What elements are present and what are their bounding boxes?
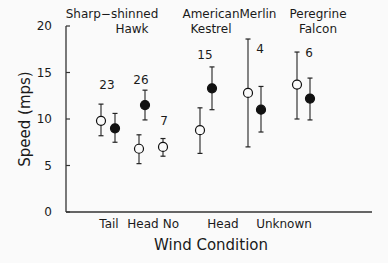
mean-marker <box>111 124 120 133</box>
mean-marker <box>293 80 302 89</box>
y-tick-label: 5 <box>44 159 52 173</box>
mean-marker <box>97 116 106 125</box>
sample-size-label: 23 <box>99 78 114 92</box>
y-tick-label: 10 <box>37 112 52 126</box>
mean-marker <box>196 126 205 135</box>
x-tick-label: Unknown <box>256 217 312 231</box>
data-point-open <box>97 104 106 136</box>
y-tick-label: 20 <box>37 19 52 33</box>
axes <box>66 26 372 212</box>
data-point-open <box>196 108 205 154</box>
sample-size-label: 7 <box>160 114 168 128</box>
data-point-filled <box>257 86 266 132</box>
group-label-sharp-shinned-1: Sharp−shinned <box>66 7 159 21</box>
mean-marker <box>135 144 144 153</box>
sample-size-label: 4 <box>256 42 264 56</box>
x-axis-title: Wind Condition <box>154 236 268 254</box>
x-tick-label: Head <box>127 217 158 231</box>
mean-marker <box>208 84 217 93</box>
y-ticks: 05101520 <box>37 19 70 219</box>
y-tick-label: 15 <box>37 66 52 80</box>
group-label-merlin: Merlin <box>240 7 277 21</box>
data-point-filled <box>111 113 120 142</box>
data-point-open <box>293 52 302 119</box>
data-point-filled <box>208 67 217 110</box>
sample-size-label: 6 <box>305 46 313 60</box>
data-point-filled <box>306 78 315 120</box>
mean-marker <box>306 94 315 103</box>
mean-marker <box>159 142 168 151</box>
y-axis-title: Speed (mps) <box>16 71 34 166</box>
group-label-peregrine-1: Peregrine <box>289 7 346 21</box>
sample-size-label: 26 <box>133 73 148 87</box>
x-tick-label: No <box>163 217 179 231</box>
group-label-kestrel-1: American <box>182 7 239 21</box>
y-tick-label: 0 <box>44 205 52 219</box>
x-tick-label: Head <box>207 217 238 231</box>
group-label-sharp-shinned-2: Hawk <box>115 22 148 36</box>
group-label-peregrine-2: Falcon <box>299 22 337 36</box>
chart: 05101520 Sharp−shinned Hawk American Kes… <box>0 0 388 263</box>
data-point-open <box>159 139 168 157</box>
data-point-filled <box>141 90 150 120</box>
mean-marker <box>141 101 150 110</box>
data-point-open <box>244 39 253 147</box>
mean-marker <box>244 88 253 97</box>
x-tick-label: Tail <box>98 217 118 231</box>
data-point-open <box>135 135 144 164</box>
sample-size-label: 15 <box>197 48 212 62</box>
mean-marker <box>257 105 266 114</box>
group-label-kestrel-2: Kestrel <box>191 22 232 36</box>
